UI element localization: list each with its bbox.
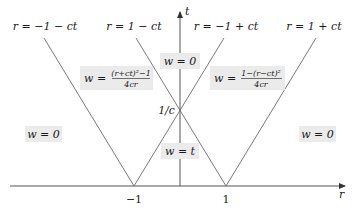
r-axis-label: r — [339, 188, 345, 201]
region-label-top-center: w = 0 — [160, 53, 200, 69]
svg-text:w = 0: w = 0 — [164, 55, 197, 68]
svg-text:1−(r−ct)²: 1−(r−ct)² — [241, 69, 280, 78]
svg-text:w =: w = — [84, 72, 106, 85]
region-label-right-wedge: w = 1−(r−ct)² 4cr — [210, 66, 285, 90]
tick-label-minus1: −1 — [126, 193, 142, 206]
region-label-left-wedge: w = (r+ct)²−1 4cr — [80, 66, 153, 90]
svg-text:w = t: w = t — [165, 145, 196, 158]
tick-label-1: 1 — [223, 193, 230, 206]
region-label-left-outer: w = 0 — [25, 126, 62, 142]
svg-text:(r+ct)²−1: (r+ct)²−1 — [111, 69, 150, 78]
region-label-bottom-center: w = t — [161, 143, 199, 159]
equation-label-1: r = −1 − ct — [13, 20, 78, 33]
equation-label-2: r = 1 − ct — [106, 20, 162, 33]
svg-text:w = 0: w = 0 — [27, 128, 60, 141]
equation-label-3: r = −1 + ct — [194, 20, 259, 33]
region-label-right-outer: w = 0 — [299, 126, 336, 142]
tick-label-1-over-c: 1/c — [158, 104, 175, 117]
t-axis-label: t — [185, 5, 190, 18]
svg-text:w = 0: w = 0 — [301, 128, 334, 141]
line-r-eq-minus1-minus-ct — [44, 38, 134, 186]
svg-text:w =: w = — [214, 72, 236, 85]
characteristics-diagram: r t r = −1 − ct r = 1 − ct r = −1 + ct r… — [0, 0, 360, 213]
equation-label-4: r = 1 + ct — [286, 20, 342, 33]
svg-text:4cr: 4cr — [123, 80, 139, 89]
svg-text:4cr: 4cr — [253, 80, 269, 89]
line-r-eq-1-plus-ct — [226, 38, 316, 186]
